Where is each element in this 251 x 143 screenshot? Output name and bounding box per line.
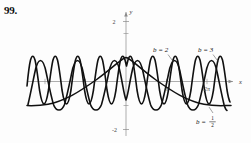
curve-b-3	[27, 56, 230, 104]
curve-label-bhalf-numerator: 1	[211, 115, 214, 121]
graph-canvas: x y 2 -2 π 2π b = 2 b = 3 b = 1 2	[0, 0, 251, 143]
curve-label-b3: b = 3	[198, 46, 214, 54]
y-tick-label-neg2: -2	[112, 127, 117, 133]
curve-label-bhalf-lead: b =	[196, 118, 206, 126]
curve-label-b2: b = 2	[153, 46, 169, 54]
leader-line-b2	[168, 55, 174, 63]
y-axis-arrow	[124, 12, 128, 17]
x-tick-label-2pi: 2π	[204, 86, 211, 92]
y-axis-label: y	[129, 8, 133, 15]
figure-container: 99.	[0, 0, 251, 143]
x-axis-arrow	[229, 80, 234, 84]
curve-label-bhalf-denominator: 2	[211, 122, 214, 128]
y-tick-label-2: 2	[113, 19, 116, 25]
curve-label-b-half: b = 1 2	[196, 115, 216, 128]
leader-line-bhalf	[209, 107, 213, 113]
x-axis-label: x	[238, 78, 242, 85]
leader-line-b3	[213, 55, 219, 63]
